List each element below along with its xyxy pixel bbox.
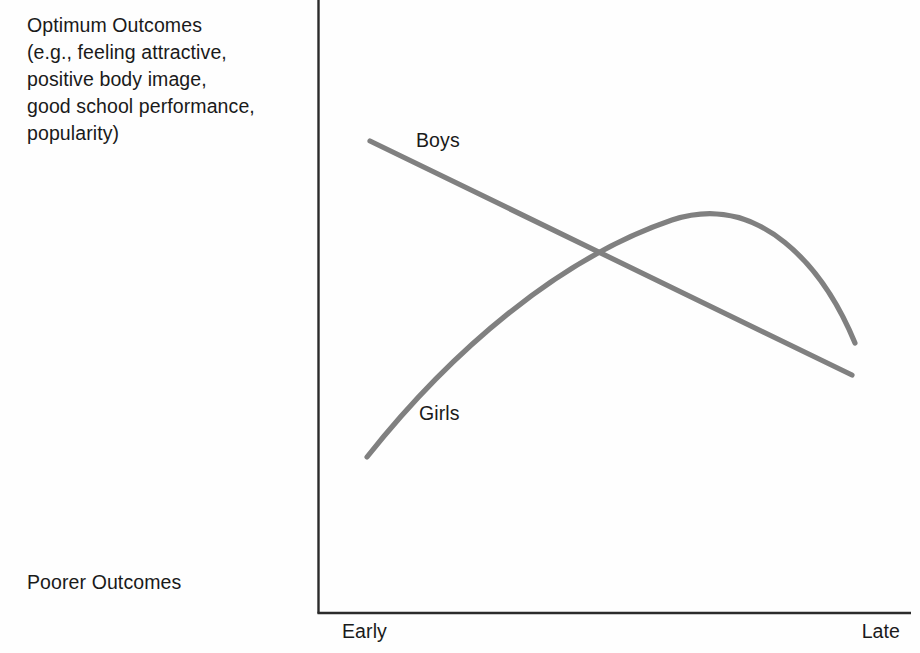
y-axis-top-label: Optimum Outcomes (e.g., feeling attracti… [27, 12, 312, 147]
chart-figure: Optimum Outcomes (e.g., feeling attracti… [0, 0, 920, 653]
series-line-boys [370, 141, 852, 375]
x-axis-tick-late: Late [830, 619, 900, 643]
x-axis-tick-early: Early [342, 619, 387, 643]
series-label-girls: Girls [419, 401, 460, 425]
y-axis-bottom-label: Poorer Outcomes [27, 570, 181, 594]
series-label-boys: Boys [416, 128, 460, 152]
